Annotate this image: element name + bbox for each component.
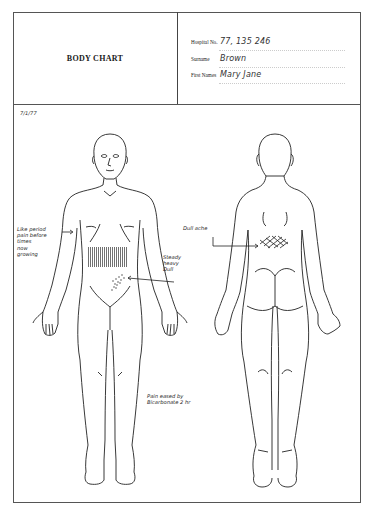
body-figures (0, 0, 370, 509)
back-shading (260, 236, 288, 248)
abdomen-shading (87, 247, 127, 267)
back-annotation: Dull ache (183, 225, 207, 231)
groin-shading (111, 274, 124, 290)
left-annotation: Like period pain before times now growin… (17, 226, 47, 257)
bottom-annotation: Pain eased by Bicarbonate 2 hr (147, 393, 190, 405)
back-body-outline (215, 134, 340, 487)
right-annotation: Steady heavy Dull (163, 254, 181, 273)
front-body-outline (33, 134, 187, 484)
